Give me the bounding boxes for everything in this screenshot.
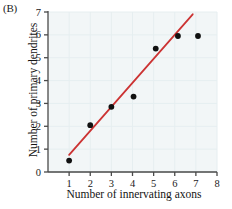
data-point-3 — [108, 104, 114, 110]
plot-area — [48, 12, 217, 172]
data-point-6 — [175, 33, 181, 39]
data-point-1 — [66, 158, 72, 164]
data-point-4 — [131, 94, 137, 100]
figure-panel-b: (B) 12345678 01234567 Number of innervat… — [0, 0, 232, 209]
x-axis-title: Number of innervating axons — [48, 188, 220, 200]
data-point-5 — [153, 46, 159, 52]
data-point-7 — [195, 33, 201, 39]
data-point-2 — [87, 122, 93, 128]
y-axis-title: Number of primary dendrites — [27, 10, 39, 170]
